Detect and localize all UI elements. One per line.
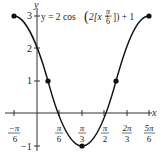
y-tick-label: −1 (21, 141, 32, 152)
x-tick-label: π 2 (101, 123, 109, 144)
point-marker (11, 13, 16, 18)
svg-text:π: π (57, 123, 62, 133)
svg-text:6: 6 (13, 134, 18, 144)
x-tick-label: 5π 6 (144, 123, 155, 144)
svg-text:−π: −π (9, 123, 20, 133)
x-tick-label: −π 6 (8, 123, 20, 144)
svg-text:6: 6 (57, 134, 62, 144)
svg-text:6: 6 (147, 134, 152, 144)
y-tick-label: 1 (27, 75, 32, 86)
svg-text:3: 3 (80, 134, 85, 144)
point-marker (146, 13, 151, 18)
svg-text:π: π (103, 123, 108, 133)
equation-label: y = 2 cos ( 2[x + π 6 ]) + 1 (41, 7, 134, 26)
point-marker (113, 78, 118, 83)
x-axis-label: x (151, 107, 157, 118)
svg-text:2π: 2π (122, 123, 132, 133)
svg-text:]) + 1: ]) + 1 (113, 12, 134, 23)
x-tick-label: π 6 (55, 123, 63, 144)
svg-text:3: 3 (125, 134, 130, 144)
point-marker (45, 78, 50, 83)
y-axis-label: y (33, 0, 39, 10)
svg-text:y = 2 cos: y = 2 cos (41, 12, 76, 22)
y-tick-label: 3 (27, 10, 32, 21)
svg-text:6: 6 (106, 17, 110, 26)
chart: x y 3 2 1 −1 −π 6 π 6 π 3 π 2 2π (0, 0, 161, 158)
x-tick-label: 2π 3 (122, 123, 132, 144)
svg-text:π: π (80, 123, 85, 133)
point-marker (79, 143, 84, 148)
y-tick-label: 2 (27, 43, 32, 54)
svg-text:5π: 5π (144, 123, 154, 133)
x-tick-label: π 3 (78, 123, 86, 144)
svg-text:2: 2 (103, 134, 108, 144)
